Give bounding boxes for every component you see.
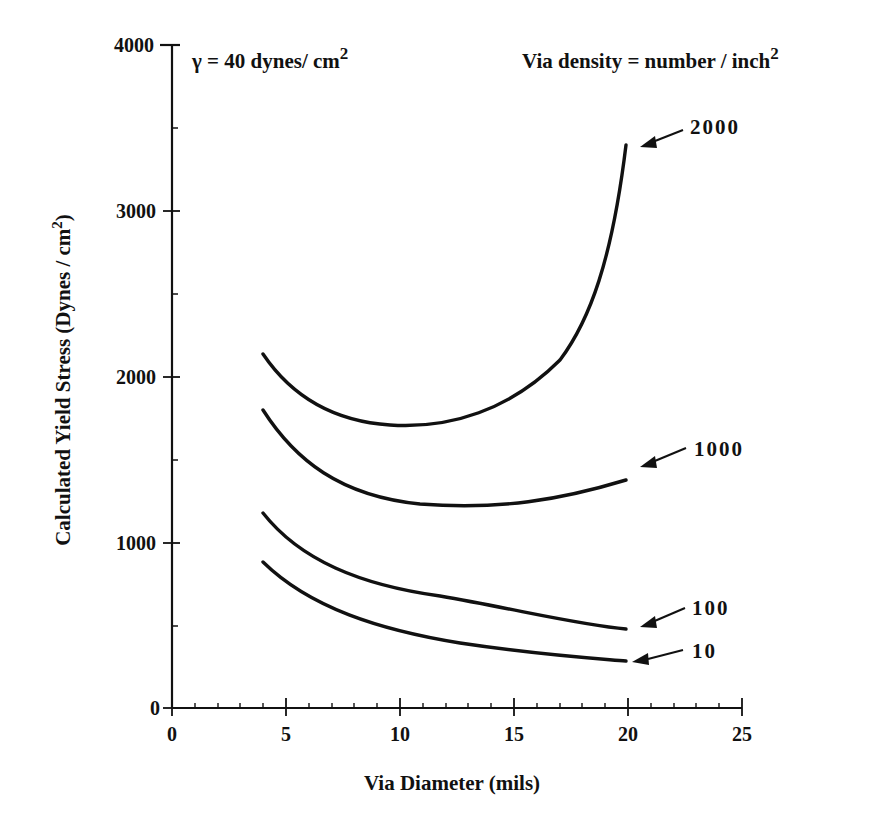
curve-10: [263, 562, 626, 661]
x-axis-title: Via Diameter (mils): [364, 771, 540, 795]
x-tick-label: 10: [390, 723, 410, 745]
x-tick-label: 15: [504, 723, 524, 745]
y-tick-label: 4000: [114, 34, 154, 56]
series-label-1000: 1000: [640, 437, 744, 468]
y-tick-label: 3000: [116, 200, 156, 222]
svg-text:2000: 2000: [690, 115, 740, 139]
svg-text:1000: 1000: [694, 437, 744, 461]
series-label-100: 100: [640, 596, 730, 628]
chart-canvas: 4000 3000 2000 1000 0 0 5 10 15 20: [0, 0, 882, 821]
series-label-2000: 2000: [640, 115, 740, 148]
x-tick-label: 0: [167, 723, 177, 745]
x-axis: 0 5 10 15 20 25: [167, 698, 752, 745]
x-tick-label: 20: [618, 723, 638, 745]
density-annotation: Via density = number / inch2: [522, 44, 779, 73]
y-axis-title: Calculated Yield Stress (Dynes / cm2): [49, 214, 75, 546]
series-label-10: 10: [632, 639, 717, 665]
svg-text:10: 10: [692, 639, 717, 663]
curve-100: [263, 513, 626, 629]
x-tick-label: 25: [732, 723, 752, 745]
curves: [263, 145, 626, 661]
x-tick-label: 5: [281, 723, 291, 745]
svg-text:100: 100: [692, 596, 730, 620]
y-tick-label: 0: [150, 697, 160, 719]
curve-1000: [263, 410, 626, 506]
y-axis: 4000 3000 2000 1000 0: [114, 34, 180, 719]
gamma-annotation: γ = 40 dynes/ cm2: [191, 44, 348, 73]
y-tick-label: 2000: [116, 366, 156, 388]
curve-2000: [263, 145, 626, 426]
y-tick-label: 1000: [116, 532, 156, 554]
